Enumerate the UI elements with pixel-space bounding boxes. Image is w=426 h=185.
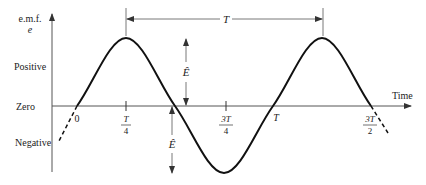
y-axis-label: e.m.f. (18, 13, 41, 24)
tick-label-t4-num: T (123, 114, 129, 124)
tick-label-3t4-num: 3T (220, 114, 232, 124)
amplitude-negative-label: Ê (168, 138, 176, 150)
tick-label-3t4-den: 4 (224, 126, 229, 136)
x-axis-label: Time (392, 90, 413, 101)
tick-label-0: 0 (75, 113, 80, 124)
amplitude-positive-label: Ê (182, 66, 190, 78)
level-zero-label: Zero (16, 101, 35, 112)
level-positive-label: Positive (14, 61, 47, 72)
tick-label-3t2-den: 2 (368, 126, 373, 136)
tick-label-3t2-num: 3T (364, 114, 376, 124)
tick-label-t4-den: 4 (124, 126, 129, 136)
level-negative-label: Negative (15, 137, 52, 148)
tick-label-t: T (273, 112, 280, 123)
y-axis-symbol: e (28, 24, 33, 35)
period-label: T (223, 13, 230, 25)
emf-sine-diagram: e.m.f. e Positive Zero Negative Time 0 T… (0, 0, 426, 185)
